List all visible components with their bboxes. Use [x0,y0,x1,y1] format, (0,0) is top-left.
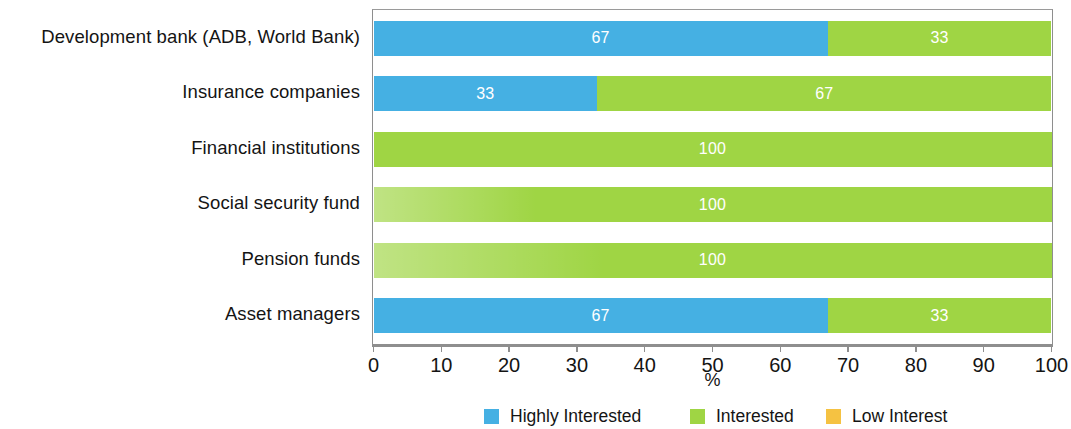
legend-label: Interested [716,407,794,426]
bar-row: 100 [374,243,1052,278]
legend-item[interactable]: Highly Interested [484,404,641,428]
x-axis-tick [508,345,510,352]
legend-swatch-icon [826,409,841,424]
bar-value-label: 100 [699,141,727,157]
x-axis-tick [847,345,849,352]
bar-row: 6733 [374,298,1052,333]
bars-layer: 673333671001001006733 [374,11,1052,344]
bar-value-label: 33 [930,308,948,324]
bar-value-label: 100 [699,252,727,268]
bar-segment: 100 [374,243,1052,278]
x-axis-tick [576,345,578,352]
bar-segment: 33 [828,298,1052,333]
bar-row: 3367 [374,76,1052,111]
category-label: Insurance companies [0,82,360,102]
category-axis-labels: Development bank (ADB, World Bank)Insura… [0,9,366,345]
legend-item[interactable]: Low Interest [826,404,947,428]
category-label: Development bank (ADB, World Bank) [0,27,360,47]
category-label: Financial institutions [0,138,360,158]
bar-value-label: 33 [930,30,948,46]
category-label: Asset managers [0,304,360,324]
bar-segment: 33 [374,76,598,111]
bar-value-label: 100 [699,197,727,213]
category-label: Social security fund [0,193,360,213]
legend-label: Low Interest [852,407,947,426]
x-axis-tick [373,345,375,352]
x-axis-title: % [372,370,1053,390]
bar-segment: 33 [828,21,1052,56]
bar-value-label: 67 [591,30,609,46]
category-label: Pension funds [0,249,360,269]
legend-item[interactable]: Interested [690,404,794,428]
x-axis-tick [1051,345,1053,352]
bar-value-label: 67 [815,86,833,102]
legend-swatch-icon [690,409,705,424]
x-axis: 0102030405060708090100 [372,345,1053,346]
chart-legend: Highly InterestedInterestedLow Interest [0,404,1071,429]
bar-row: 100 [374,132,1052,167]
bar-segment: 67 [374,21,828,56]
x-axis-tick [644,345,646,352]
legend-swatch-icon [484,409,499,424]
x-axis-tick [712,345,714,352]
bar-value-label: 67 [591,308,609,324]
stacked-bar-chart: Development bank (ADB, World Bank)Insura… [0,0,1071,429]
x-axis-tick [983,345,985,352]
x-axis-tick [915,345,917,352]
x-axis-tick [441,345,443,352]
bar-segment: 67 [597,76,1051,111]
bar-segment: 67 [374,298,828,333]
bar-row: 100 [374,187,1052,222]
bar-segment: 100 [374,187,1052,222]
bar-row: 6733 [374,21,1052,56]
bar-value-label: 33 [476,86,494,102]
x-axis-tick [780,345,782,352]
legend-label: Highly Interested [510,407,641,426]
bar-segment: 100 [374,132,1052,167]
